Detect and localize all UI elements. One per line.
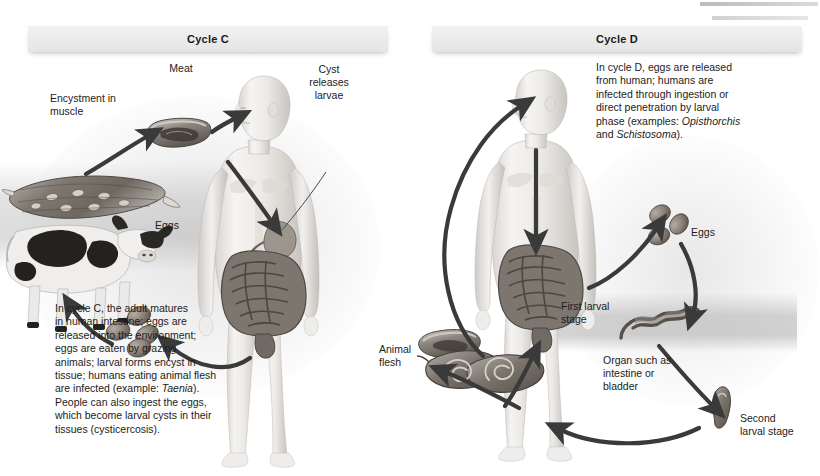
cycle-c-muscle-figure (2, 176, 180, 218)
arrow-second-larva-to-flesh-left (561, 428, 699, 443)
cycle-c-header: Cycle C (28, 26, 388, 52)
label-encystment-in-muscle: Encystment in muscle (50, 92, 170, 118)
cycle-d-title: Cycle D (596, 33, 638, 45)
cycle-d-header: Cycle D (432, 26, 802, 52)
page-edge-fragment-bottom (712, 16, 808, 20)
label-eggs-cycle-d: Eggs (691, 226, 743, 239)
cycle-d-caption: In cycle D, eggs are releasedfrom human;… (596, 61, 816, 141)
arrow-meat-to-human (212, 118, 236, 132)
label-meat: Meat (148, 62, 214, 75)
cycle-d-panel: Eggs First larval stage Second larval st… (409, 56, 818, 476)
label-second-larval-stage: Second larval stage (740, 412, 820, 438)
arrow-human-to-eggs (589, 228, 657, 288)
label-cyst-releases-larvae: Cyst releases larvae (295, 63, 363, 102)
cycle-c-title: Cycle C (187, 33, 229, 45)
arrow-muscle-to-meat (86, 136, 148, 174)
cycle-c-panel: Encystment in muscle Meat Cyst releases … (0, 56, 409, 476)
cycle-d-eggs-figure (646, 201, 693, 248)
page-edge-fragment-top (700, 2, 818, 6)
cycle-c-caption: In cycle C, the adult maturesin human in… (55, 302, 295, 436)
arrow-eggs-to-first-larva (681, 244, 696, 314)
label-animal-flesh: Animal flesh (379, 343, 429, 369)
label-organ-intestine-bladder: Organ such as intestine or bladder (603, 354, 693, 393)
cycle-d-second-larval-stage-figure (712, 387, 730, 428)
cycle-c-meat-figure (148, 118, 211, 147)
label-first-larval-stage: First larval stage (561, 300, 631, 326)
label-eggs-cycle-c: Eggs (137, 219, 197, 232)
